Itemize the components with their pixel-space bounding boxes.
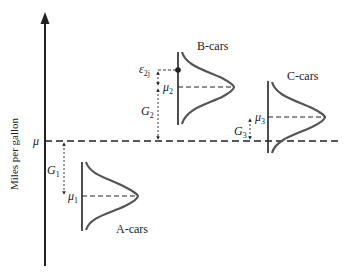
g1-label: G1 — [47, 163, 60, 179]
b-cars-distribution-curve — [182, 52, 234, 124]
grand-mean-label: μ — [32, 134, 39, 148]
g3-label: G3 — [234, 124, 247, 140]
y-axis-label: Miles per gallon — [8, 117, 20, 190]
epsilon-label: ε2j — [139, 62, 150, 78]
g2-label: G2 — [141, 104, 154, 120]
mpg-group-effects-diagram: Miles per gallon μ μ1 G1 A-cars μ2 ε2j G… — [0, 0, 347, 279]
a-cars-mean-label: μ1 — [67, 189, 78, 205]
b-cars-label: B-cars — [197, 39, 229, 53]
group-a-cars — [64, 144, 138, 231]
y-axis-arrowhead-icon — [41, 12, 50, 24]
b-cars-mean-label: μ2 — [162, 80, 173, 96]
c-cars-mean-label: μ3 — [254, 110, 265, 126]
c-cars-label: C-cars — [287, 69, 319, 83]
a-cars-label: A-cars — [116, 222, 148, 236]
y-axis — [41, 12, 50, 266]
